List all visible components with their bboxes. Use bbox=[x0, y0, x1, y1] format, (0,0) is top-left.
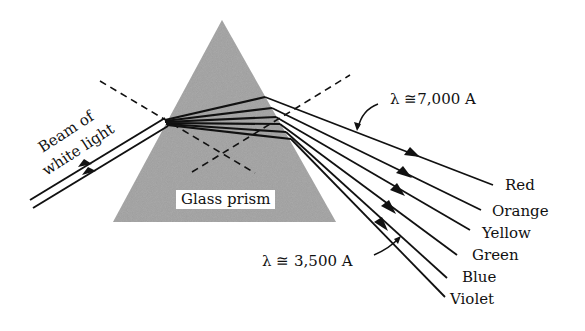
wavelength-short-label: λ ≅ 3,500 A bbox=[262, 254, 353, 269]
spectrum-label-yellow: Yellow bbox=[482, 226, 531, 241]
arrow-icon bbox=[381, 200, 396, 214]
spectrum-label-violet: Violet bbox=[450, 292, 494, 307]
arrow-icon bbox=[396, 166, 412, 178]
spectrum-label-green: Green bbox=[472, 248, 519, 263]
spectrum-label-red: Red bbox=[505, 178, 535, 193]
leader-long-wavelength bbox=[358, 104, 378, 128]
arrow-icon bbox=[404, 147, 420, 157]
ray-arrows bbox=[374, 147, 420, 231]
arrow-icon bbox=[374, 217, 388, 231]
wavelength-long-label: λ ≅7,000 A bbox=[390, 92, 476, 107]
prism-label: Glass prism bbox=[176, 190, 275, 209]
prism-dispersion-diagram bbox=[0, 0, 585, 331]
spectrum-label-orange: Orange bbox=[492, 204, 549, 219]
spectrum-label-blue: Blue bbox=[462, 270, 496, 285]
